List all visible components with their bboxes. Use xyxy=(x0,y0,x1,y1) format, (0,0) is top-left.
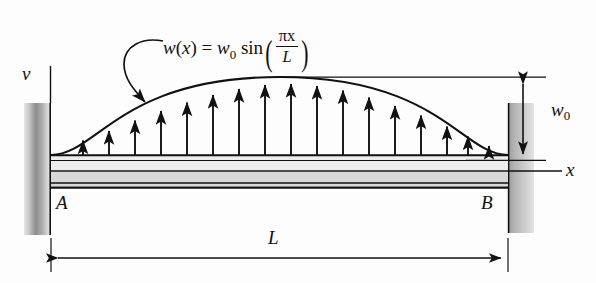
load-equation: w(x) = w0 sin(πxL) xyxy=(163,26,311,74)
load-arrow-group xyxy=(83,84,489,155)
equation-load-subscript: 0 xyxy=(230,47,236,62)
equation-bracket-close: ) xyxy=(301,34,308,74)
equation-trig: sin xyxy=(241,37,263,58)
amplitude-subscript: 0 xyxy=(564,108,570,123)
span-dimension-label: L xyxy=(268,228,279,247)
amplitude-label: w0 xyxy=(551,100,570,123)
support-right xyxy=(508,103,534,233)
amplitude-symbol: w xyxy=(551,99,564,120)
beam xyxy=(51,155,508,187)
equation-fraction: πxL xyxy=(276,26,298,67)
equation-load-symbol: w xyxy=(217,37,230,58)
x-axis-label: x xyxy=(566,160,574,179)
support-left xyxy=(24,103,50,235)
equation-function: w xyxy=(163,37,176,58)
equation-paren-close: ) xyxy=(190,37,196,58)
sine-load-curve xyxy=(51,77,508,155)
beam-load-diagram: w(x) = w0 sin(πxL) v A B L x w0 xyxy=(0,0,596,283)
support-label-b: B xyxy=(481,193,493,212)
span-dimension xyxy=(51,238,508,272)
w0-dimension xyxy=(279,77,546,160)
equation-equals: = xyxy=(202,37,213,58)
support-label-a: A xyxy=(56,193,68,212)
equation-bracket-open: ( xyxy=(265,34,272,74)
equation-denominator: L xyxy=(276,46,298,67)
vertical-axis-label: v xyxy=(22,64,30,83)
equation-numerator: πx xyxy=(276,26,298,46)
equation-leader-arrow xyxy=(124,40,163,102)
